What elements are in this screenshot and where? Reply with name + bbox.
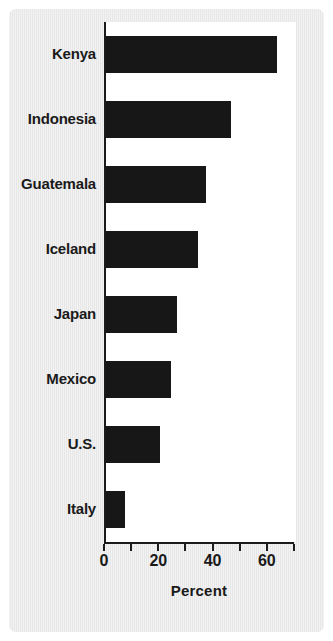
plot-area <box>104 22 294 542</box>
bar-guatemala <box>106 166 206 203</box>
x-tick-50 <box>239 544 241 551</box>
bar-row <box>106 477 296 542</box>
category-label-slot: Iceland <box>0 217 100 282</box>
category-label-slot: Italy <box>0 477 100 542</box>
category-label-indonesia: Indonesia <box>0 111 96 127</box>
x-tick-30 <box>184 544 186 551</box>
category-label-kenya: Kenya <box>0 46 96 62</box>
category-label-u-s: U.S. <box>0 436 96 452</box>
x-tick-70 <box>293 544 295 551</box>
category-label-slot: U.S. <box>0 412 100 477</box>
category-axis-labels: KenyaIndonesiaGuatemalaIcelandJapanMexic… <box>0 22 100 542</box>
bar-row <box>106 412 296 477</box>
x-tick-40 <box>212 544 214 551</box>
bar-u-s <box>106 426 160 463</box>
category-label-iceland: Iceland <box>0 241 96 257</box>
x-axis-title: Percent <box>104 582 294 599</box>
category-label-slot: Guatemala <box>0 152 100 217</box>
x-tick-label-40: 40 <box>204 552 222 570</box>
x-tick-60 <box>266 544 268 551</box>
bar-row <box>106 152 296 217</box>
bar-indonesia <box>106 101 231 138</box>
x-tick-label-0: 0 <box>100 552 109 570</box>
bar-iceland <box>106 231 198 268</box>
bar-mexico <box>106 361 171 398</box>
bar-row <box>106 282 296 347</box>
x-axis-ticks <box>104 544 294 552</box>
bar-japan <box>106 296 177 333</box>
x-tick-0 <box>103 544 105 551</box>
x-tick-label-60: 60 <box>258 552 276 570</box>
category-label-slot: Japan <box>0 282 100 347</box>
bar-italy <box>106 491 125 528</box>
bar-row <box>106 347 296 412</box>
x-tick-20 <box>157 544 159 551</box>
category-label-guatemala: Guatemala <box>0 176 96 192</box>
bar-row <box>106 22 296 87</box>
x-tick-10 <box>130 544 132 551</box>
category-label-japan: Japan <box>0 306 96 322</box>
bar-kenya <box>106 36 277 73</box>
x-tick-label-20: 20 <box>149 552 167 570</box>
x-axis-tick-labels: 0204060 <box>104 552 294 574</box>
bar-row <box>106 217 296 282</box>
bar-row <box>106 87 296 152</box>
category-label-slot: Indonesia <box>0 87 100 152</box>
category-label-slot: Mexico <box>0 347 100 412</box>
bar-series <box>106 22 296 542</box>
category-label-slot: Kenya <box>0 22 100 87</box>
figure: KenyaIndonesiaGuatemalaIcelandJapanMexic… <box>0 0 333 641</box>
category-label-italy: Italy <box>0 501 96 517</box>
category-label-mexico: Mexico <box>0 371 96 387</box>
